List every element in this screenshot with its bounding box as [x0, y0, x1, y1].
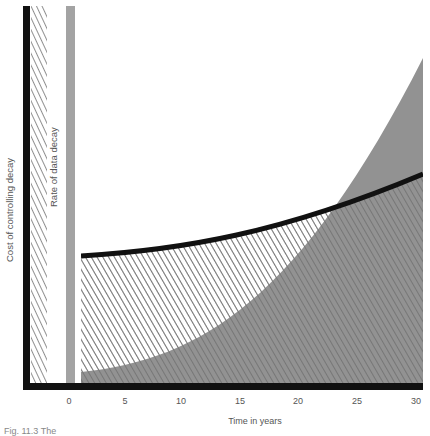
secondary-axis-label: Rate of data decay — [48, 127, 59, 207]
x-axis-label: Time in years — [228, 416, 282, 426]
decay-rate-bar — [66, 6, 75, 384]
x-tick: 20 — [293, 396, 303, 406]
x-tick: 5 — [122, 396, 127, 406]
x-tick: 15 — [235, 396, 245, 406]
y-axis — [23, 6, 30, 390]
x-axis — [23, 383, 423, 390]
x-tick: 30 — [411, 396, 421, 406]
hatched-bar — [31, 6, 47, 384]
y-axis-label: Cost of controlling decay — [4, 158, 15, 262]
figure-caption: Fig. 11.3 The — [4, 426, 56, 436]
x-tick: 25 — [352, 396, 362, 406]
x-tick: 10 — [176, 396, 186, 406]
x-tick: 0 — [66, 396, 71, 406]
